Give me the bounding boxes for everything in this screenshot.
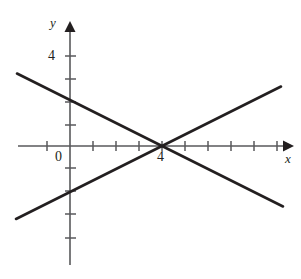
y-axis-arrow-icon bbox=[65, 21, 76, 32]
x-axis-arrow-icon bbox=[283, 141, 294, 152]
y-axis-label: y bbox=[50, 16, 56, 29]
y-tick-label-4: 4 bbox=[48, 49, 55, 63]
x-axis-label: x bbox=[285, 152, 291, 165]
origin-label: 0 bbox=[55, 150, 62, 164]
decreasing-line bbox=[17, 74, 283, 207]
graph-figure: y x 0 4 4 bbox=[0, 0, 301, 279]
x-tick-label-4: 4 bbox=[157, 150, 164, 164]
coordinate-plane bbox=[0, 0, 301, 279]
